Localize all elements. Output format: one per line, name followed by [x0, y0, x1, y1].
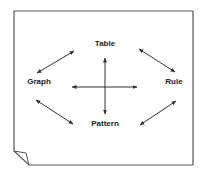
node-label-pattern: Pattern — [91, 120, 119, 128]
diagram-svg — [0, 0, 206, 179]
node-label-rule: Rule — [165, 78, 182, 86]
node-label-graph: Graph — [27, 78, 51, 86]
diagram-canvas: Table Graph Rule Pattern — [0, 0, 206, 179]
node-label-table: Table — [95, 40, 115, 48]
page-frame — [14, 11, 193, 165]
